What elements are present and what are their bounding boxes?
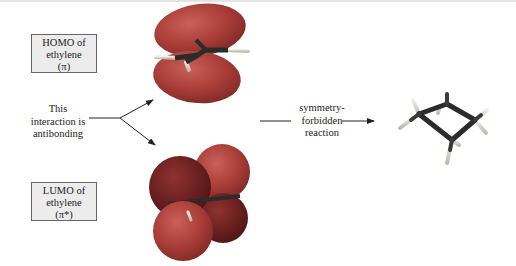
cyclobutane-figure <box>400 81 487 163</box>
homo-orbital-figure <box>151 0 250 107</box>
branch-arrows <box>89 100 155 145</box>
diagram-graphics <box>0 0 516 266</box>
lumo-orbital-figure <box>149 144 250 261</box>
